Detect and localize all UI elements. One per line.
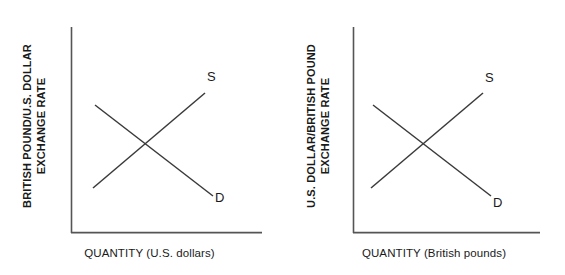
y-axis-label-line2: EXCHANGE RATE xyxy=(35,20,49,232)
chart-panel-british-pound-per-us-dollar: S D BRITISH POUND/U.S. DOLLAR EXCHANGE R… xyxy=(0,0,283,275)
x-axis-label-right: QUANTITY (British pounds) xyxy=(293,247,565,259)
demand-curve xyxy=(95,105,213,196)
y-axis-label-line1: U.S. DOLLAR/BRITISH POUND xyxy=(305,20,319,232)
supply-curve xyxy=(93,93,205,188)
supply-curve-label: S xyxy=(207,69,216,84)
exchange-rate-diagram-figure: S D BRITISH POUND/U.S. DOLLAR EXCHANGE R… xyxy=(0,0,565,275)
x-axis-label-left: QUANTITY (U.S. dollars) xyxy=(8,247,291,259)
chart-panel-us-dollar-per-british-pound: S D U.S. DOLLAR/BRITISH POUND EXCHANGE R… xyxy=(283,0,565,275)
y-axis-label-line2: EXCHANGE RATE xyxy=(319,20,333,232)
demand-curve-label: D xyxy=(493,195,502,210)
supply-curve xyxy=(371,93,483,188)
supply-curve-label: S xyxy=(485,70,494,85)
y-axis-label-right: U.S. DOLLAR/BRITISH POUND EXCHANGE RATE xyxy=(305,20,332,232)
demand-curve xyxy=(373,105,491,196)
y-axis-label-line1: BRITISH POUND/U.S. DOLLAR xyxy=(21,20,35,232)
demand-curve-label: D xyxy=(215,190,224,205)
y-axis-label-left: BRITISH POUND/U.S. DOLLAR EXCHANGE RATE xyxy=(21,20,48,232)
